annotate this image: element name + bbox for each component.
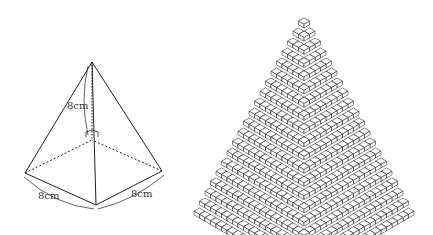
square-pyramid [24, 62, 164, 209]
stepped-cube-pyramid [194, 18, 414, 235]
base-left-label: 8cm [38, 190, 60, 201]
figure-canvas: 8cm 8cm 8cm [0, 0, 433, 235]
height-label: 8cm [67, 100, 89, 111]
base-right-label: 8cm [131, 188, 153, 199]
